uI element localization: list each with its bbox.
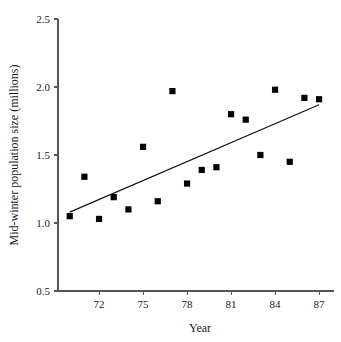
data-point-marker [257, 152, 263, 158]
data-point-marker [155, 198, 161, 204]
x-tick-label: 75 [138, 298, 150, 310]
x-tick-label: 84 [270, 298, 282, 310]
data-point-marker [272, 87, 278, 93]
y-axis-title: Mid-winter population size (millions) [7, 65, 21, 246]
data-point-marker [184, 180, 190, 186]
x-tick-label: 72 [94, 298, 105, 310]
y-tick-label: 0.5 [36, 285, 50, 297]
x-axis-title: Year [189, 321, 211, 335]
y-axis: 0.51.01.52.02.5 [36, 13, 58, 297]
trend-line-segment [70, 105, 319, 212]
data-point-marker [301, 95, 307, 101]
x-tick-label: 81 [226, 298, 237, 310]
chart-canvas: 0.51.01.52.02.5 727578818487 Year Mid-wi… [0, 0, 341, 342]
y-tick-label: 1.5 [36, 149, 50, 161]
data-point-marker [111, 194, 117, 200]
scatter-chart: 0.51.01.52.02.5 727578818487 Year Mid-wi… [0, 0, 341, 342]
y-axis-ticks: 0.51.01.52.02.5 [36, 13, 58, 297]
data-point-marker [287, 159, 293, 165]
data-point-marker [169, 88, 175, 94]
y-tick-label: 2.5 [36, 13, 50, 25]
x-axis-ticks: 727578818487 [94, 291, 326, 310]
data-point-marker [199, 167, 205, 173]
data-point-marker [213, 164, 219, 170]
x-axis: 727578818487 [58, 291, 334, 310]
data-point-marker [125, 206, 131, 212]
data-point-marker [140, 144, 146, 150]
x-tick-label: 78 [182, 298, 194, 310]
data-point-marker [81, 174, 87, 180]
data-point-marker [228, 111, 234, 117]
data-point-marker [96, 216, 102, 222]
x-tick-label: 87 [314, 298, 326, 310]
regression-trend-line [70, 105, 319, 212]
data-point-marker [67, 213, 73, 219]
y-tick-label: 2.0 [36, 81, 50, 93]
data-point-marker [243, 117, 249, 123]
y-tick-label: 1.0 [36, 217, 50, 229]
data-point-markers [67, 87, 323, 222]
data-point-marker [316, 96, 322, 102]
